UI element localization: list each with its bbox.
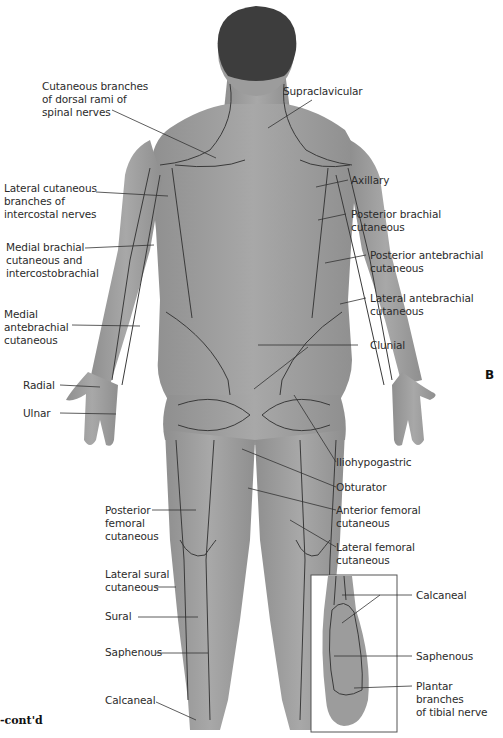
label-saphenous-leg: Saphenous [105,646,162,659]
cutaneous-nerve-figure: Cutaneous branches of dorsal rami of spi… [0,0,503,738]
label-iliohypogastric: Iliohypogastric [336,456,412,469]
label-calcaneal-foot: Calcaneal [416,589,466,602]
label-posterior-femoral: Posterior femoral cutaneous [105,504,159,543]
label-posterior-brachial: Posterior brachial cutaneous [351,208,441,234]
label-supraclavicular: Supraclavicular [283,85,363,98]
label-radial: Radial [23,379,55,392]
label-medial-brachial: Medial brachial cutaneous and intercosto… [6,241,99,280]
caption-fragment: -cont'd [0,714,43,727]
label-anterior-femoral: Anterior femoral cutaneous [336,504,421,530]
label-axillary: Axillary [351,174,389,187]
label-posterior-antebrachial: Posterior antebrachial cutaneous [370,249,483,275]
inset-foot [311,575,412,732]
label-lateral-femoral: Lateral femoral cutaneous [336,541,415,567]
label-calcaneal-leg: Calcaneal [105,694,155,707]
label-lateral-sural: Lateral sural cutaneous [105,568,169,594]
label-dorsal-rami: Cutaneous branches of dorsal rami of spi… [42,80,148,119]
label-saphenous-foot: Saphenous [416,650,473,663]
label-ulnar: Ulnar [23,407,51,420]
label-sural: Sural [105,610,132,623]
panel-letter: B [485,368,494,382]
label-plantar-tibial: Plantar branches of tibial nerve [416,680,503,719]
label-obturator: Obturator [336,481,386,494]
label-lateral-intercostal: Lateral cutaneous branches of intercosta… [4,182,97,221]
label-clunial: Clunial [370,339,405,352]
label-medial-antebrachial: Medial antebrachial cutaneous [4,308,69,347]
label-lateral-antebrachial: Lateral antebrachial cutaneous [370,292,474,318]
